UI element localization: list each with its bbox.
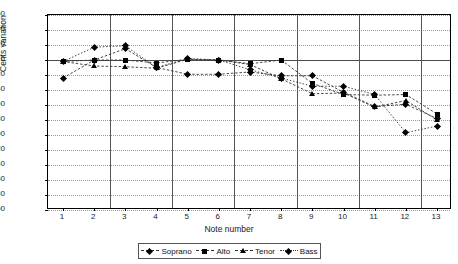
legend-marker-icon	[202, 249, 207, 254]
y-axis-tick-label: 40	[0, 25, 5, 33]
x-axis-tick-label: 3	[114, 212, 134, 221]
legend-marker-icon	[146, 247, 153, 254]
x-axis-tick-label: 12	[395, 212, 415, 221]
plot-area	[47, 14, 451, 209]
x-axis-tick-label: 4	[146, 212, 166, 221]
series-line-bass	[63, 46, 437, 133]
y-tick	[45, 210, 48, 211]
x-axis-tick-label: 13	[426, 212, 446, 221]
x-axis-tick-label: 10	[333, 212, 353, 221]
x-axis-tick-label: 6	[208, 212, 228, 221]
y-axis-tick-label: −80	[0, 115, 5, 123]
x-tick	[375, 208, 376, 211]
x-axis-tick-label: 2	[83, 212, 103, 221]
x-tick	[406, 208, 407, 211]
chart-figure: Cents variation Note number 6040200−20−4…	[0, 0, 458, 264]
y-axis-tick-label: 20	[0, 40, 5, 48]
legend-line-swatch	[196, 250, 214, 252]
legend-label: Alto	[216, 247, 230, 256]
legend-item-tenor[interactable]: Tenor	[235, 247, 275, 256]
x-axis-title: Note number	[0, 224, 458, 234]
x-axis-tick-label: 5	[177, 212, 197, 221]
legend-marker-icon	[240, 248, 246, 253]
y-axis-tick-label: −200	[0, 205, 5, 213]
x-tick	[63, 208, 64, 211]
x-tick	[219, 208, 220, 211]
y-axis-tick-label: −60	[0, 100, 5, 108]
y-axis-tick-label: −160	[0, 175, 5, 183]
x-tick	[94, 208, 95, 211]
legend-label: Soprano	[161, 247, 191, 256]
x-tick	[125, 208, 126, 211]
y-axis-tick-label: −20	[0, 70, 5, 78]
legend-label: Tenor	[255, 247, 275, 256]
y-axis-tick-label: 60	[0, 10, 5, 18]
x-axis-tick-label: 8	[270, 212, 290, 221]
series-lines	[48, 15, 452, 210]
series-line-soprano	[63, 49, 437, 119]
legend-label: Bass	[300, 247, 318, 256]
x-tick	[437, 208, 438, 211]
y-axis-tick-label: −140	[0, 160, 5, 168]
legend-item-soprano[interactable]: Soprano	[141, 247, 191, 256]
y-axis-tick-label: −120	[0, 145, 5, 153]
x-tick	[312, 208, 313, 211]
x-tick	[281, 208, 282, 211]
legend-line-swatch	[280, 250, 298, 252]
x-axis-tick-label: 9	[301, 212, 321, 221]
y-axis-tick-label: 0	[0, 55, 5, 63]
x-axis-tick-label: 7	[239, 212, 259, 221]
legend-line-swatch	[141, 250, 159, 252]
legend-item-alto[interactable]: Alto	[196, 247, 230, 256]
x-tick	[157, 208, 158, 211]
legend-marker-icon	[285, 247, 292, 254]
x-axis-tick-label: 11	[364, 212, 384, 221]
legend-item-bass[interactable]: Bass	[280, 247, 318, 256]
y-axis-tick-label: −180	[0, 190, 5, 198]
gridline	[48, 210, 450, 211]
legend-line-swatch	[235, 250, 253, 252]
y-axis-tick-label: −100	[0, 130, 5, 138]
x-tick	[250, 208, 251, 211]
x-tick	[344, 208, 345, 211]
x-axis-tick-label: 1	[52, 212, 72, 221]
y-axis-tick-label: −40	[0, 85, 5, 93]
x-tick	[188, 208, 189, 211]
chart-legend: SopranoAltoTenorBass	[138, 243, 321, 259]
